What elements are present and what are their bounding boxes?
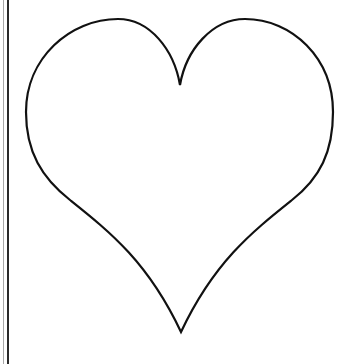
heart-path [26,19,333,332]
page-canvas: Heart outline drawing [0,0,345,364]
heart-outline-icon [0,0,345,364]
